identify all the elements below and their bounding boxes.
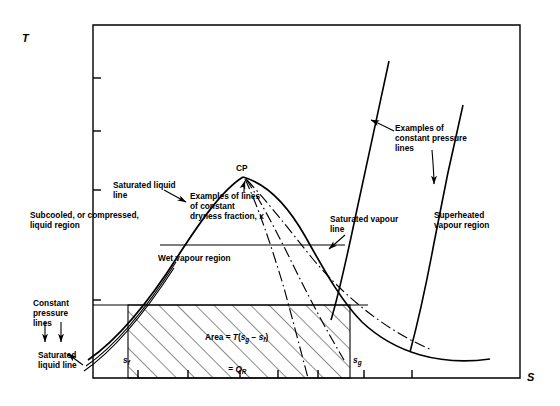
region-label-wet-vapour: Wet vapour region: [158, 253, 231, 263]
annotation-saturated-liquid-line-lower: Saturated liquid line: [38, 350, 77, 370]
annotation-saturated-liquid-line-upper: Saturated liquid line: [113, 180, 176, 200]
x-axis-label: S: [527, 371, 534, 383]
y-axis-ticks: [93, 78, 101, 300]
area-formula-Q-sub: R: [242, 368, 247, 375]
entropy-sg-label: sg: [353, 355, 362, 366]
region-label-subcooled-liquid: Subcooled, or compressed, liquid region: [30, 210, 139, 230]
region-label-superheated-vapour: Superheated vapour region: [434, 210, 489, 230]
area-formula-line1: Area = T(sg − sf): [205, 332, 268, 342]
pressure-curve-left: [331, 61, 389, 320]
area-formula: Area = T(sg − sf) = QR: [196, 322, 268, 385]
area-formula-close: ): [265, 332, 268, 342]
arrow-pressure-right: [432, 150, 434, 184]
ts-diagram-figure: T S CP Subcooled, or compressed, liquid …: [0, 0, 560, 406]
annotation-saturated-vapour-line: Saturated vapour line: [330, 214, 398, 234]
entropy-sg-symbol: s: [353, 355, 358, 365]
area-formula-prefix: Area =: [205, 332, 233, 342]
entropy-sf-subscript: f: [128, 359, 130, 366]
entropy-sf-label: sf: [123, 355, 130, 366]
area-formula-line2: = QR: [205, 364, 246, 375]
annotation-dryness-fraction-lines: Examples of lines of constant dryness fr…: [190, 191, 264, 222]
annotation-constant-pressure-lines-left: Constant pressure lines: [33, 298, 69, 329]
area-formula-sg-sub: g: [245, 336, 249, 343]
area-formula-minus: −: [249, 332, 258, 342]
entropy-sg-subscript: g: [358, 359, 362, 366]
area-formula-Q: Q: [235, 364, 241, 374]
y-axis-label: T: [22, 32, 29, 44]
entropy-sf-symbol: s: [123, 355, 128, 365]
annotation-constant-pressure-lines-right: Examples of constant pressure lines: [395, 123, 467, 154]
diagram-canvas: [0, 0, 560, 406]
arrow-saturated-vapour: [329, 235, 345, 249]
critical-point-label: CP: [236, 163, 248, 173]
